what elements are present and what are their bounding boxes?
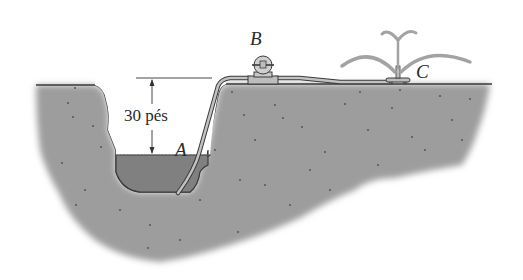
point-a-label: A xyxy=(175,140,187,159)
ground xyxy=(36,84,492,262)
height-dimension-label: 30 pés xyxy=(124,107,168,124)
pump-b xyxy=(248,56,278,84)
point-b-label: B xyxy=(250,29,262,48)
pump-fountain-diagram: B C A 30 pés xyxy=(0,0,523,280)
fountain-spray xyxy=(342,32,470,72)
point-c-label: C xyxy=(416,62,429,81)
